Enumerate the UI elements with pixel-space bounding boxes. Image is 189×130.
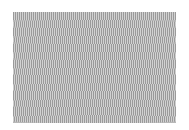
stripe-band: [13, 115, 176, 123]
stripe-band: [13, 60, 176, 68]
stripe-band: [13, 75, 176, 83]
stripe-band: [13, 28, 176, 36]
stripe-band: [13, 12, 176, 20]
stripe-band: [13, 44, 176, 52]
moire-pattern-area: [13, 12, 176, 123]
stripe-band: [13, 107, 176, 115]
stripe-band: [13, 91, 176, 99]
